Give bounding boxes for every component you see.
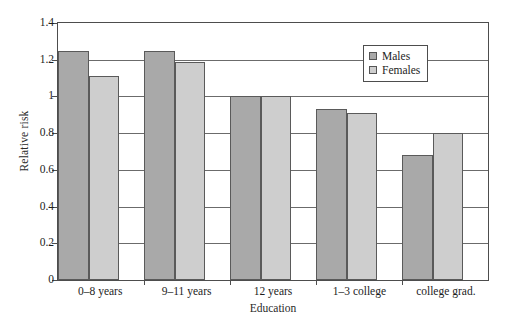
- legend-item-males: Males: [369, 49, 420, 63]
- bar-males: [58, 51, 89, 280]
- legend-item-females: Females: [369, 63, 420, 77]
- bar-females: [89, 76, 120, 280]
- y-axis-tick-label: 0.4: [40, 200, 54, 212]
- legend-swatch-females-icon: [369, 66, 377, 74]
- x-axis-title: Education: [57, 302, 489, 314]
- chart-legend: Males Females: [363, 45, 428, 82]
- x-axis-category-label: 12 years: [230, 285, 316, 297]
- y-axis-tick-label: 1: [48, 89, 54, 101]
- bar-males: [230, 96, 261, 280]
- y-axis-tick-label: 0.2: [40, 236, 54, 248]
- y-axis-tick-label: 0: [48, 273, 54, 285]
- y-axis-tick-label: 1.2: [40, 53, 54, 65]
- x-axis-category-labels: 0–8 years9–11 years12 years1–3 collegeco…: [57, 285, 489, 297]
- legend-swatch-males-icon: [369, 52, 377, 60]
- bar-group: [58, 23, 144, 280]
- bar-males: [316, 109, 347, 280]
- x-axis-category-label: 9–11 years: [143, 285, 229, 297]
- x-axis-category-label: college grad.: [403, 285, 489, 297]
- bar-chart-figure: Relative risk 00.20.40.60.811.21.4 0–8 y…: [0, 0, 506, 321]
- bar-females: [433, 133, 464, 280]
- y-axis-tick-label: 0.6: [40, 163, 54, 175]
- bar-females: [347, 113, 378, 280]
- y-axis-title: Relative risk: [18, 76, 30, 206]
- bar-group: [230, 23, 316, 280]
- bar-males: [402, 155, 433, 280]
- legend-label-males: Males: [382, 49, 410, 63]
- bar-males: [144, 51, 175, 280]
- bar-females: [175, 62, 206, 280]
- y-axis-tick-label: 1.4: [40, 16, 54, 28]
- x-axis-category-label: 0–8 years: [57, 285, 143, 297]
- x-axis-category-label: 1–3 college: [316, 285, 402, 297]
- bar-females: [261, 96, 292, 280]
- bar-group: [144, 23, 230, 280]
- legend-label-females: Females: [382, 63, 420, 77]
- y-axis-tick-label: 0.8: [40, 126, 54, 138]
